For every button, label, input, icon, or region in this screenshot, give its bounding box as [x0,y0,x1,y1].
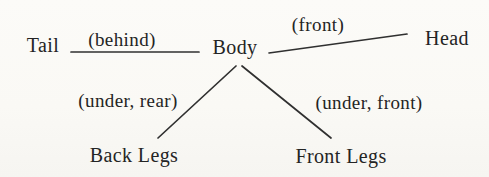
node-front-legs: Front Legs [295,146,386,166]
diagram-edges [0,0,489,177]
edge-body-head [269,34,407,53]
edge-label-under-front: (under, front) [315,93,422,112]
edge-label-under-rear: (under, rear) [78,91,177,110]
node-body: Body [213,37,258,57]
node-tail: Tail [27,35,59,55]
diagram-canvas: Tail (behind) Body (front) Head (under, … [0,0,489,177]
edge-label-front: (front) [292,15,344,34]
node-head: Head [425,28,469,48]
node-back-legs: Back Legs [90,145,179,165]
edge-label-behind: (behind) [88,30,156,49]
